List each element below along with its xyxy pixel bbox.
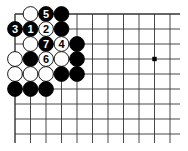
black-stone: 5 (39, 7, 54, 22)
white-stone-circle (23, 67, 38, 82)
black-stone: 1 (23, 22, 38, 37)
black-stone-circle (39, 82, 54, 97)
black-stone: 7 (39, 37, 54, 52)
black-stone (70, 52, 85, 67)
stones-layer: 5312746 (8, 7, 85, 97)
move-number-label: 7 (43, 38, 49, 50)
black-stone (54, 22, 69, 37)
black-stone-circle (70, 67, 85, 82)
move-number-label: 6 (43, 53, 49, 65)
white-stone-circle (8, 52, 23, 67)
black-stone-circle (8, 82, 23, 97)
move-number-label: 2 (43, 23, 49, 35)
move-number-label: 5 (43, 8, 49, 20)
black-stone (23, 82, 38, 97)
white-stone-circle (8, 67, 23, 82)
white-stone-circle (39, 67, 54, 82)
go-board: 5312746 (0, 0, 188, 151)
move-number-label: 1 (27, 23, 33, 35)
white-stone: 6 (39, 52, 54, 67)
black-stone (54, 7, 69, 22)
black-stone-circle (23, 82, 38, 97)
white-stone (8, 67, 23, 82)
black-stone-circle (54, 7, 69, 22)
white-stone: 4 (54, 37, 69, 52)
black-stone-circle (23, 52, 38, 67)
black-stone (54, 67, 69, 82)
black-stone (23, 52, 38, 67)
white-stone-circle (54, 52, 69, 67)
black-stone: 3 (8, 22, 23, 37)
white-stone (23, 67, 38, 82)
white-stone-circle (23, 37, 38, 52)
black-stone-circle (54, 22, 69, 37)
white-stone (23, 7, 38, 22)
black-stone (8, 82, 23, 97)
star-points (152, 57, 156, 61)
white-stone (39, 67, 54, 82)
white-stone (8, 52, 23, 67)
black-stone-circle (70, 52, 85, 67)
white-stone-circle (23, 7, 38, 22)
black-stone (39, 82, 54, 97)
star-point-icon (152, 57, 156, 61)
black-stone (70, 67, 85, 82)
move-number-label: 4 (58, 38, 65, 50)
white-stone (54, 52, 69, 67)
move-number-label: 3 (12, 23, 18, 35)
black-stone-circle (54, 67, 69, 82)
black-stone (70, 37, 85, 52)
white-stone: 2 (39, 22, 54, 37)
black-stone-circle (70, 37, 85, 52)
white-stone (23, 37, 38, 52)
